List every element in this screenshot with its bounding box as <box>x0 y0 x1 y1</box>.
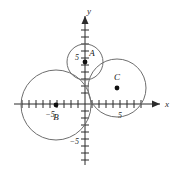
y-axis-label: y <box>86 6 91 16</box>
circle-c-group: C <box>88 59 146 117</box>
y-axis-arrow-icon <box>82 16 89 24</box>
circle-b-label: B <box>53 112 59 122</box>
y-axis: y <box>81 6 91 165</box>
circle-c-label: C <box>114 72 121 82</box>
circle-c-center-dot <box>115 86 120 91</box>
x-tick-label-5: 5 <box>118 111 122 120</box>
coordinate-plane-svg: x <box>0 0 179 173</box>
y-tick-label-5: 5 <box>75 53 79 62</box>
y-tick-label-neg5: −5 <box>70 137 79 146</box>
circle-b-center-dot <box>54 103 59 108</box>
circle-a-label: A <box>88 48 95 58</box>
x-axis-label: x <box>164 99 169 109</box>
geometry-figure: x <box>0 0 179 173</box>
x-axis: x <box>14 99 169 109</box>
circle-b-group: B <box>21 70 91 140</box>
x-axis-arrow-icon <box>152 101 160 108</box>
circle-a-center-dot <box>83 60 88 65</box>
